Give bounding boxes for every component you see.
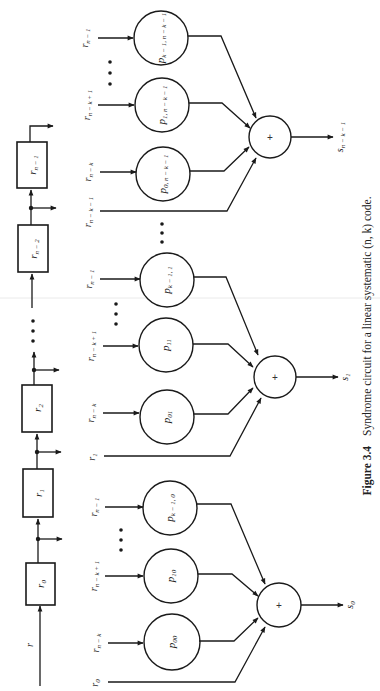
input-label: r xyxy=(24,643,35,647)
syndrome-group-s0: rn − 1 pk − 1, 0 rn − k + 1 p10 rn − k p… xyxy=(88,481,357,687)
plus-symbol: + xyxy=(267,132,273,143)
input-label: rn − 1 xyxy=(83,269,96,288)
input-ellipsis xyxy=(108,60,112,86)
caption-number: Figure 3.4 xyxy=(361,446,374,496)
input-label: rn − k xyxy=(82,162,95,182)
shift-register: r r0 r1 r2 rn − 2 xyxy=(17,126,62,686)
direct-input-label: rn − k − 1 xyxy=(82,197,95,227)
direct-input-label: r0 xyxy=(89,679,102,687)
input-label: rn − k + 1 xyxy=(88,561,101,591)
input-ellipsis xyxy=(114,302,118,326)
input-ellipsis xyxy=(119,528,123,552)
output-label: s0 xyxy=(344,601,357,609)
figure-caption: Figure 3.4Syndrome circuit for a linear … xyxy=(361,196,374,495)
input-label: rn − 1 xyxy=(88,497,101,516)
input-label: rn − k + 1 xyxy=(81,90,94,120)
input-label: rn − k xyxy=(85,403,98,423)
caption-text: Syndrome circuit for a linear systematic… xyxy=(361,196,374,436)
input-label: rn − 1 xyxy=(79,28,92,47)
group-ellipsis xyxy=(160,222,164,244)
direct-input-label: r1 xyxy=(86,453,99,460)
output-label: s1 xyxy=(339,373,352,380)
input-label: rn − k + 1 xyxy=(85,331,98,361)
register-output-arrow xyxy=(30,126,53,142)
plus-symbol: + xyxy=(272,372,278,383)
syndrome-group-s1: rn − 1 pk − 1, 1 rn − k + 1 p11 rn − k p… xyxy=(83,253,352,461)
syndrome-group-sn-k-1: rn − 1 pk − 1, n − k − 1 rn − k + 1 p1, … xyxy=(79,11,347,227)
output-label: sn − k − 1 xyxy=(334,122,347,152)
input-label: rn − k xyxy=(90,633,103,653)
register-ellipsis xyxy=(31,319,35,343)
syndrome-circuit-diagram: r r0 r1 r2 rn − 2 xyxy=(0,0,380,691)
plus-symbol: + xyxy=(276,600,282,611)
